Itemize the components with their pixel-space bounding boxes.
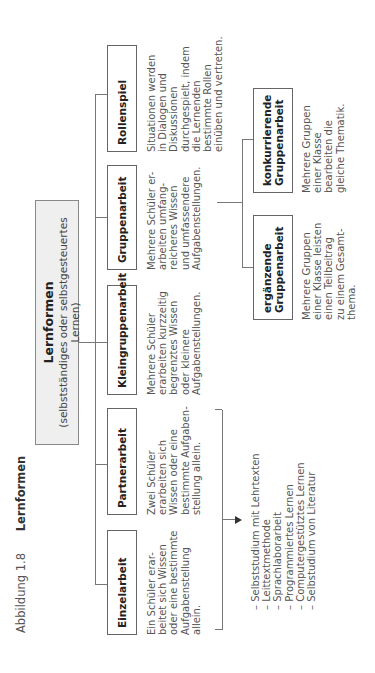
figure-caption: Abbildung 1.8 Lernformen xyxy=(14,456,28,633)
methods-list: – Selbststudium mit Lehrtexten – Leittex… xyxy=(250,453,317,610)
stem-konkurrierende xyxy=(242,139,253,140)
desc-kleingruppenarbeit: Mehrere Schüler erarbeiten kurzzeitig be… xyxy=(146,291,202,395)
node-label: Einzelarbeit xyxy=(116,557,128,628)
group-bus xyxy=(242,140,243,268)
stem-ergaenzende xyxy=(242,267,253,268)
stem-partnerarbeit xyxy=(95,464,107,465)
desc-gruppenarbeit: Mehrere Schüler er- arbeiten umfang- rei… xyxy=(146,166,202,270)
root-title: Lernformen xyxy=(41,201,56,444)
arrow-down-icon xyxy=(235,516,242,524)
bracket-bar xyxy=(222,410,223,630)
desc-rollenspiel: Situationen werden in Dialogen und Disku… xyxy=(146,36,224,152)
desc-partnerarbeit: Zwei Schüler erarbeiten sich Wissen oder… xyxy=(146,406,202,515)
stem-kleingruppenarbeit xyxy=(95,342,107,343)
node-partnerarbeit: Partnerarbeit xyxy=(107,408,137,515)
diagram-canvas: Abbildung 1.8 Lernformen Lernformen (sel… xyxy=(0,0,375,673)
node-einzelarbeit: Einzelarbeit xyxy=(107,530,137,635)
desc-konkurrierende-gruppenarbeit: Mehrere Gruppen einer Klasse bearbeiten … xyxy=(301,104,346,193)
desc-ergaenzende-gruppenarbeit: Mehrere Gruppen einer Klasse leisten ein… xyxy=(301,223,357,320)
root-node: Lernformen (selbstständiges oder selbstg… xyxy=(35,200,79,445)
node-kleingruppenarbeit: Kleingruppenarbeit xyxy=(107,285,137,395)
root-stem xyxy=(79,342,95,343)
level1-bus xyxy=(95,94,96,585)
node-label-line2: Gruppenarbeit xyxy=(273,95,285,186)
figure-title: Lernformen xyxy=(14,456,28,532)
node-konkurrierende-gruppenarbeit: konkurrierende Gruppenarbeit xyxy=(253,88,293,193)
bracket-right xyxy=(215,409,222,410)
group-stem xyxy=(217,202,242,203)
desc-einzelarbeit: Ein Schüler erar- beitet sich Wissen ode… xyxy=(146,531,202,635)
arrow-shaft xyxy=(222,519,236,520)
root-subtitle: (selbstständiges oder selbstgesteuertes … xyxy=(57,201,81,444)
node-label: Kleingruppenarbeit xyxy=(116,273,128,388)
node-label-line1: konkurrierende xyxy=(261,95,273,186)
node-label-line1: ergänzende xyxy=(261,227,273,313)
node-rollenspiel: Rollenspiel xyxy=(107,45,137,152)
node-label: Rollenspiel xyxy=(116,80,128,145)
stem-einzelarbeit xyxy=(95,584,107,585)
node-label: Gruppenarbeit xyxy=(116,177,128,263)
bracket-left xyxy=(215,629,222,630)
stem-rollenspiel xyxy=(95,94,107,95)
node-gruppenarbeit: Gruppenarbeit xyxy=(107,165,137,270)
node-ergaenzende-gruppenarbeit: ergänzende Gruppenarbeit xyxy=(253,215,293,320)
stem-gruppenarbeit xyxy=(95,217,107,218)
node-label: Partnerarbeit xyxy=(116,428,128,508)
node-label-line2: Gruppenarbeit xyxy=(273,227,285,313)
figure-number: Abbildung 1.8 xyxy=(14,553,28,633)
